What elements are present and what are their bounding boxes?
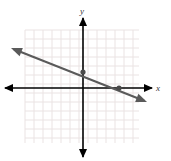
x-axis-left-arrowhead xyxy=(4,84,13,92)
data-point-x-intercept xyxy=(116,85,121,90)
y-axis-label: y xyxy=(79,6,84,16)
y-axis-top-arrowhead xyxy=(79,17,87,26)
line-left-arrowhead xyxy=(11,48,23,56)
coordinate-plane-figure: y x xyxy=(0,0,171,161)
x-axis-right-arrowhead xyxy=(144,84,153,92)
grid-lines xyxy=(25,30,139,143)
x-axis-label: x xyxy=(155,83,160,93)
y-axis-bottom-arrowhead xyxy=(79,149,87,158)
line-right-arrowhead xyxy=(135,94,147,102)
data-point-y-intercept xyxy=(80,69,85,74)
graph-canvas: y x xyxy=(0,0,171,161)
